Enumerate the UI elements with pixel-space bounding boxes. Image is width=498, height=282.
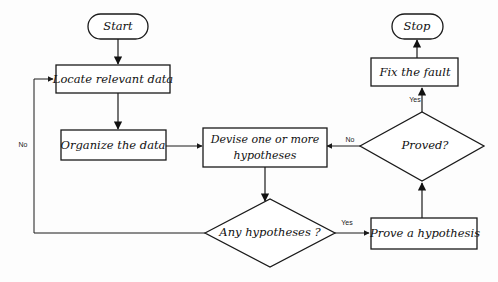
edge-label-any-no: No (19, 141, 28, 148)
node-prove-label: Prove a hypothesis (369, 226, 480, 240)
node-stop-label: Stop (404, 19, 431, 33)
node-devise-label-line1: Devise one or more (210, 133, 320, 146)
node-fix-label: Fix the fault (378, 65, 450, 79)
node-devise-label-line2: hypotheses (234, 149, 297, 162)
node-locate-label: Locate relevant data (52, 72, 174, 86)
flowchart-canvas: Start Locate relevant data Organize the … (0, 0, 498, 282)
node-any-hypotheses-label: Any hypotheses ? (218, 225, 321, 239)
edge-label-proved-yes: Yes (409, 96, 421, 103)
flowchart-svg: Start Locate relevant data Organize the … (0, 0, 498, 282)
edge-label-any-yes: Yes (341, 219, 353, 226)
edge-label-proved-no: No (346, 136, 355, 143)
node-start-label: Start (103, 19, 133, 33)
node-proved-label: Proved? (401, 138, 450, 152)
node-organize-label: Organize the data (61, 138, 166, 152)
